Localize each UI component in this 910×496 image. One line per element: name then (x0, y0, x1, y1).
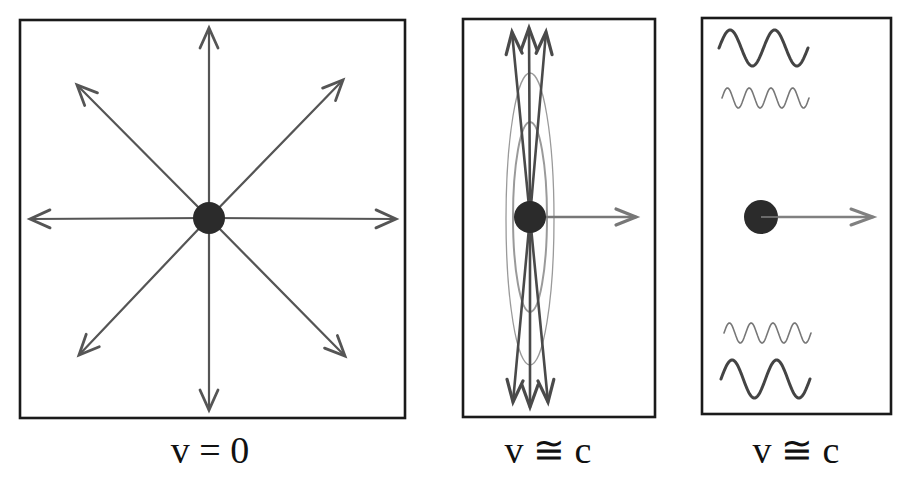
caption-relativistic-beamed: v ≅ c (505, 428, 592, 472)
wave-top-short-icon (722, 88, 809, 108)
charge-particle-icon (193, 202, 225, 234)
radiation-diagram (0, 0, 910, 496)
panel-rest (20, 20, 405, 418)
arrow-left (30, 210, 209, 228)
caption-relativistic-waves: v ≅ c (753, 428, 840, 472)
arrow-down (522, 217, 538, 407)
wave-bottom-long-icon (721, 360, 810, 398)
arrow-up-right (209, 80, 343, 218)
arrow-up (521, 28, 537, 217)
panel-relativistic-waves (702, 18, 891, 414)
wave-bottom-short-icon (724, 323, 811, 343)
panel-relativistic-beamed (463, 19, 655, 417)
arrow-down (200, 218, 218, 410)
charge-particle-icon (514, 201, 546, 233)
arrow-down-right (209, 218, 345, 356)
arrow-right (209, 210, 396, 228)
arrow-down-left (79, 218, 209, 355)
caption-rest: v = 0 (171, 428, 249, 472)
arrow-up (200, 28, 218, 218)
arrow-up-left (77, 85, 209, 218)
wave-top-long-icon (719, 30, 808, 66)
